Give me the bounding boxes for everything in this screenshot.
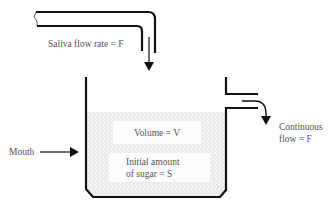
saliva-pipe-cut-end [34,12,37,26]
outflow-arrow-head [261,116,271,125]
initial-sugar-label-line1: Initial amount [126,157,180,167]
outlet-upper-wall [226,77,258,94]
continuous-flow-label-line1: Continuous [279,122,323,132]
saliva-inflow-arrow-head [144,62,154,71]
volume-label: Volume = V [134,128,180,138]
mouth-arrow-head [70,147,79,157]
saliva-flow-label: Saliva flow rate = F [48,39,124,49]
continuous-flow-label-line2: flow = F [279,134,312,144]
initial-sugar-label-line2: of sugar = S [126,169,172,179]
mouth-label: Mouth [9,147,35,157]
saliva-flow-diagram: Saliva flow rate = F Mouth Volume = V In… [0,0,336,211]
